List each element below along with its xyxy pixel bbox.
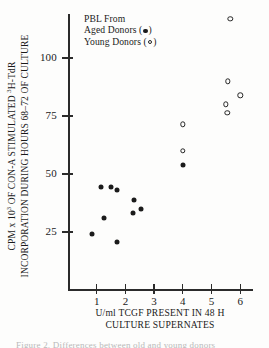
y-tick-label-50: 50 xyxy=(27,168,57,179)
y-axis-title-line1-a: CPM x 10 xyxy=(7,210,17,250)
y-axis-title-line1-b: OF CON-A STIMULATED xyxy=(7,93,17,207)
x-tick-label-5: 5 xyxy=(205,296,219,307)
y-tick-50 xyxy=(62,173,73,174)
y-axis-line xyxy=(68,14,70,291)
data-point-aged xyxy=(90,232,95,237)
y-tick-label-75: 75 xyxy=(27,110,57,121)
y-tick-label-100: 100 xyxy=(27,52,57,63)
data-point-aged xyxy=(132,197,137,202)
legend-label-young-prefix: Young Donors ( xyxy=(84,36,147,47)
y-axis-title-line1-c: H-TdR xyxy=(7,62,17,90)
y-tick-label-25: 25 xyxy=(27,226,57,237)
filled-circle-icon xyxy=(143,29,147,33)
legend-label-young-suffix: ) xyxy=(153,36,156,47)
figure-caption: Figure 2. Differences between old and yo… xyxy=(16,340,266,348)
legend: PBL From Aged Donors () Young Donors () xyxy=(84,13,156,47)
data-point-aged xyxy=(99,184,104,189)
open-circle-icon xyxy=(148,40,152,44)
x-tick-5 xyxy=(211,284,212,294)
y-axis-title-exponent: 3 xyxy=(5,207,12,210)
legend-item-aged: Aged Donors () xyxy=(84,24,156,35)
x-tick-1 xyxy=(96,284,97,294)
data-point-young xyxy=(223,102,228,107)
x-axis-title-line2: CULTURE SUPERNATES xyxy=(60,319,260,331)
legend-label-aged-prefix: Aged Donors ( xyxy=(84,24,142,35)
data-point-aged xyxy=(130,211,135,216)
data-point-young xyxy=(225,78,230,83)
data-point-aged xyxy=(109,184,114,189)
y-axis-title-line2: INCORPORATION DURING HOURS 68–72 OF CULT… xyxy=(19,6,32,306)
x-axis-title-line1: U/ml TCGF PRESENT IN 48 H xyxy=(60,307,260,319)
x-axis-title: U/ml TCGF PRESENT IN 48 H CULTURE SUPERN… xyxy=(60,307,260,330)
data-point-aged xyxy=(114,240,119,245)
x-tick-label-3: 3 xyxy=(147,296,161,307)
y-axis-title-tritium-superscript: 3 xyxy=(5,89,12,92)
y-tick-75 xyxy=(62,115,73,116)
x-tick-4 xyxy=(182,284,183,294)
figure-scatter-plot: CPM x 103 OF CON-A STIMULATED 3H-TdR INC… xyxy=(0,0,269,348)
data-point-aged xyxy=(101,216,106,221)
data-point-young xyxy=(180,121,185,126)
x-tick-6 xyxy=(240,284,241,294)
x-tick-label-6: 6 xyxy=(233,296,247,307)
y-axis-title-line1: CPM x 103 OF CON-A STIMULATED 3H-TdR xyxy=(6,6,19,306)
legend-item-young: Young Donors () xyxy=(84,36,156,47)
data-point-young xyxy=(227,16,232,21)
x-tick-label-4: 4 xyxy=(176,296,190,307)
x-tick-label-2: 2 xyxy=(118,296,132,307)
data-point-young xyxy=(180,148,185,153)
y-tick-100 xyxy=(62,57,73,58)
x-tick-label-1: 1 xyxy=(90,296,104,307)
data-point-young xyxy=(225,110,230,115)
x-tick-2 xyxy=(125,284,126,294)
data-point-aged xyxy=(139,206,144,211)
y-tick-25 xyxy=(62,231,73,232)
data-point-young xyxy=(237,92,242,97)
data-point-aged xyxy=(180,162,185,167)
legend-title: PBL From xyxy=(84,13,156,24)
x-tick-3 xyxy=(153,284,154,294)
legend-label-aged-suffix: ) xyxy=(149,24,152,35)
data-point-aged xyxy=(114,188,119,193)
